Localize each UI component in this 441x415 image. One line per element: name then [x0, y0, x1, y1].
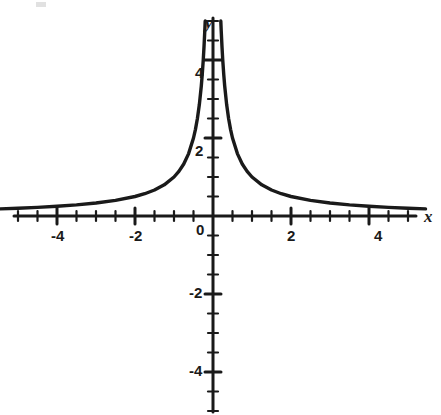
y-tick-label-pos4: 4	[195, 65, 203, 80]
y-tick-label-pos2: 2	[195, 143, 203, 158]
y-axis-label: y	[205, 14, 213, 31]
scan-artifact	[36, 2, 46, 7]
curve-branch-left	[0, 21, 205, 209]
y-tick-label-neg2: -2	[189, 285, 202, 300]
function-graph-figure: x y -4 -2 2 4 0 4 2 -2 -4	[0, 0, 441, 415]
x-tick-label-neg2: -2	[129, 228, 142, 243]
x-tick-label-neg4: -4	[51, 228, 64, 243]
plot-canvas	[0, 0, 441, 415]
x-axis-label: x	[424, 208, 433, 225]
y-tick-label-neg4: -4	[189, 363, 202, 378]
curve-branch-right	[221, 21, 426, 209]
x-tick-label-pos4: 4	[374, 228, 382, 243]
origin-label: 0	[196, 222, 204, 237]
x-tick-label-pos2: 2	[287, 228, 295, 243]
